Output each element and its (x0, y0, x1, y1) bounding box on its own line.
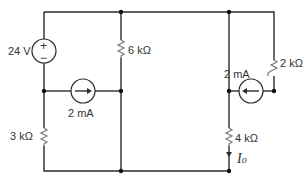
node (119, 169, 123, 173)
bottom-wire (44, 146, 229, 171)
node (119, 89, 123, 93)
node (42, 89, 46, 93)
current-io-label: Io (237, 152, 247, 166)
current-source-left-label: 2 mA (68, 108, 94, 119)
node (227, 10, 231, 14)
circuit-diagram: + − 24 V 6 kΩ 2 mA 3 kΩ 2 kΩ 2 mA 4 kΩ I… (0, 0, 308, 182)
node (272, 89, 276, 93)
current-arrow-icon (226, 152, 232, 157)
resistor-2k-icon (268, 60, 277, 76)
resistor-4k-label: 4 kΩ (235, 133, 258, 144)
resistor-2k-label: 2 kΩ (280, 58, 303, 69)
top-wire (44, 12, 274, 60)
minus-sign: − (40, 52, 47, 64)
circuit-schematic (0, 0, 308, 182)
resistor-3k-icon (41, 128, 47, 146)
resistor-6k-label: 6 kΩ (128, 45, 151, 56)
voltage-source-label: 24 V (8, 46, 31, 57)
current-source-right-label: 2 mA (224, 69, 250, 80)
resistor-6k-icon (118, 40, 124, 58)
resistor-3k-label: 3 kΩ (10, 131, 33, 142)
node (227, 89, 231, 93)
current-io-sub: o (242, 154, 247, 165)
node (119, 10, 123, 14)
resistor-4k-icon (226, 128, 232, 146)
node (227, 169, 231, 173)
